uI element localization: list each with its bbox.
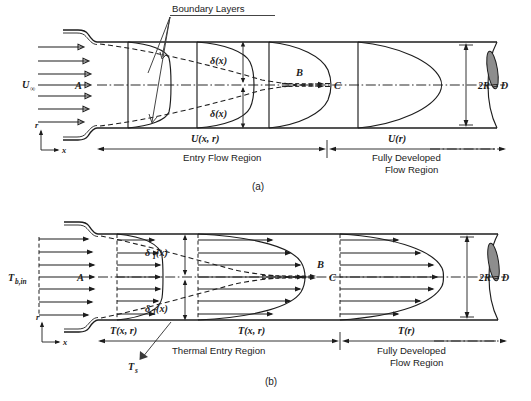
axis-r-label-b: r <box>36 313 40 322</box>
boundary-layers-label: Boundary Layers <box>172 3 245 14</box>
inlet-temperature-label: T <box>8 272 15 283</box>
inlet-bellmouth-bottom <box>63 128 97 140</box>
boundary-layers-leaders <box>148 17 170 123</box>
fully-developed-label-b-line2: Flow Region <box>390 357 443 368</box>
delta-t-lower-dimension <box>183 280 187 321</box>
axis-x-label-b: x <box>62 338 67 347</box>
fully-developed-label-a-line2: Flow Region <box>385 164 438 175</box>
delta-t-lower-argument: (x) <box>156 303 168 315</box>
delta-upper-dimension <box>241 42 245 84</box>
figure-root: Boundary Layers U ∞ A B C δ(x) δ(x) U(x,… <box>0 0 531 401</box>
point-b-label-a: B <box>295 67 303 78</box>
inlet-velocity-arrows <box>38 44 91 125</box>
delta-t-upper-argument: (x) <box>156 247 168 259</box>
inlet-bellmouth-top-b <box>64 222 98 234</box>
entry-flow-region-label: Entry Flow Region <box>183 152 261 163</box>
inlet-velocity-label: U <box>22 79 30 90</box>
point-c-label-a: C <box>334 80 342 91</box>
point-a-label-b: A <box>76 272 84 283</box>
profile-developing-left-label-b: T(x, r) <box>110 325 137 337</box>
profile-developed-label-b: T(r) <box>398 325 415 337</box>
boundary-layer-edge-bottom <box>100 84 330 127</box>
inlet-velocity-subscript: ∞ <box>30 84 35 93</box>
panel-b-group: T b,in A B C δ T (x) δ T (x) T s T(x, r)… <box>8 222 510 387</box>
fully-developed-label-a-line1: Fully Developed <box>372 152 441 163</box>
inlet-bellmouth-bottom-b <box>64 320 98 332</box>
profile-developed-label-a: U(r) <box>388 133 406 145</box>
panel-a-drawing: Boundary Layers U ∞ A B C δ(x) δ(x) U(x,… <box>0 0 531 401</box>
delta-t-upper-dimension <box>183 235 187 276</box>
point-a-label-a: A <box>74 80 82 91</box>
thermal-boundary-edge-top <box>101 236 312 278</box>
region-dimension-a <box>97 140 506 158</box>
axis-x-label-a: x <box>61 146 66 155</box>
delta-t-lower-label: δ <box>145 303 150 314</box>
profile-developing-label-a: U(x, r) <box>191 133 219 145</box>
point-b-label-b: B <box>316 259 324 270</box>
panel-b-caption: (b) <box>265 376 277 387</box>
temperature-station-3 <box>340 234 444 320</box>
point-c-label-b: C <box>329 272 337 283</box>
axes-a <box>39 130 60 153</box>
diameter-label-b: 2R = D <box>478 272 510 283</box>
axes-b <box>40 322 61 345</box>
diameter-label-a: 2R = D <box>477 80 509 91</box>
inlet-bellmouth-top <box>63 30 97 42</box>
delta-lower-dimension <box>241 87 245 129</box>
panel-a-group: Boundary Layers U ∞ A B C δ(x) δ(x) U(x,… <box>22 3 509 192</box>
fully-developed-label-b-line1: Fully Developed <box>377 345 446 356</box>
profile-developing-mid-label-b: T(x, r) <box>238 325 265 337</box>
delta-upper-label: δ(x) <box>210 55 227 67</box>
inlet-temperature-profile <box>39 236 96 317</box>
surface-temperature-label: T <box>128 361 135 372</box>
thermal-entry-region-label: Thermal Entry Region <box>172 345 265 356</box>
panel-a-caption: (a) <box>252 181 264 192</box>
thermal-boundary-edge-bottom <box>101 276 312 318</box>
delta-lower-label: δ(x) <box>210 108 227 120</box>
delta-t-upper-label: δ <box>145 247 150 258</box>
surface-temperature-subscript: s <box>134 366 138 375</box>
inlet-temperature-subscript: b,in <box>15 277 27 286</box>
